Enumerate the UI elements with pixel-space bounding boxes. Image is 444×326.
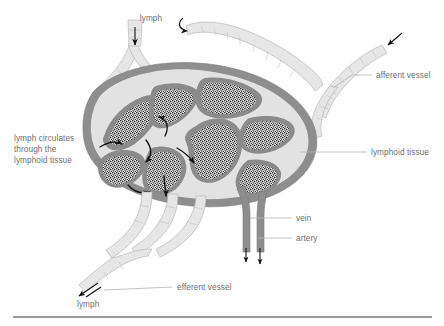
label-lymphoid-tissue: lymphoid tissue [371,148,429,157]
figure-canvas: lymph afferent vessel lymphoid tissue ve… [0,0,444,326]
label-circulation-note-line1: lymph circulates [14,134,74,143]
label-artery: artery [296,234,318,243]
label-efferent-vessel: efferent vessel [177,283,232,292]
label-circulation-note-line2: through the [14,145,57,154]
label-afferent-vessel: afferent vessel [376,71,431,80]
lymph-node-body [83,62,317,206]
artery-vessel [257,191,267,264]
label-lymph-top: lymph [140,14,163,23]
leader-efferent-vessel [104,287,172,290]
label-vein: vein [296,214,312,223]
label-circulation-note-line3: lymphoid tissue [14,156,72,165]
label-lymph-bottom: lymph [77,300,100,309]
lymph-node-diagram: lymph afferent vessel lymphoid tissue ve… [0,0,444,326]
efferent-vessel [79,192,206,297]
